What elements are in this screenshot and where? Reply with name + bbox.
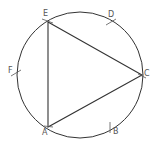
- equilateral-triangle: [48, 22, 142, 127]
- point-label-e: E: [43, 10, 48, 18]
- point-label-c: C: [144, 70, 150, 78]
- geometry-figure: [0, 0, 157, 145]
- tick-mark-a: [44, 126, 53, 127]
- point-label-b: B: [113, 128, 119, 136]
- diagram-canvas: E D C B A F: [0, 0, 157, 145]
- point-label-f: F: [8, 67, 13, 75]
- circumscribed-circle: [17, 12, 143, 138]
- point-label-d: D: [108, 11, 114, 19]
- point-label-a: A: [42, 129, 47, 137]
